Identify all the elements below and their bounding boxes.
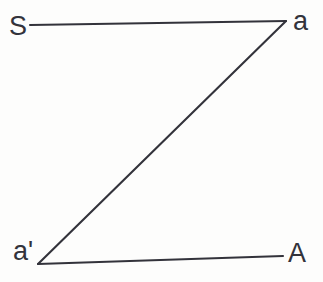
vertex-label-a-uppercase: A [288,240,306,267]
geometric-diagram: S a a' A [0,0,323,282]
vertex-label-s: S [9,13,27,40]
top-segment [30,21,286,25]
figure-linework [0,0,323,282]
vertex-label-a-prime: a' [13,238,33,265]
bottom-segment [38,256,283,264]
vertex-label-a: a [293,8,308,35]
diagonal-segment [38,21,286,264]
